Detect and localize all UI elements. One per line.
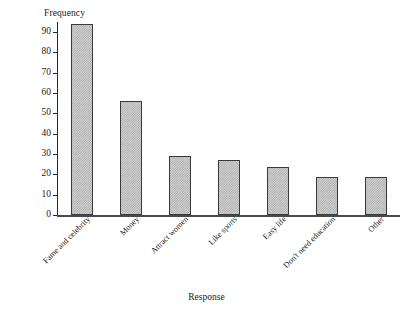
x-axis-tick-labels: Fame and celebrityMoneyAttract womenLike… xyxy=(57,216,407,286)
bar xyxy=(316,177,338,215)
x-tick-label: Like sports xyxy=(208,216,240,248)
y-tick-mark xyxy=(53,73,57,74)
y-tick-mark xyxy=(53,134,57,135)
x-tick-label-text: Don't need education xyxy=(281,215,336,270)
x-tick-label: Don't need education xyxy=(283,216,338,271)
x-tick-label: Money xyxy=(120,216,143,239)
y-tick-label: 60 xyxy=(42,88,52,98)
y-axis-title: Frequency xyxy=(44,8,85,18)
x-tick-label-text: Money xyxy=(118,215,141,238)
y-tick-mark xyxy=(53,113,57,114)
y-tick-label: 20 xyxy=(42,170,52,180)
x-axis-title: Response xyxy=(0,292,413,302)
y-tick-mark xyxy=(53,154,57,155)
x-tick-label: Other xyxy=(367,216,387,236)
bar xyxy=(71,24,93,215)
y-tick-mark xyxy=(53,93,57,94)
y-tick-mark xyxy=(53,174,57,175)
x-tick-label: Attract women xyxy=(151,216,192,257)
y-tick-label: 40 xyxy=(42,129,52,139)
x-tick-label-text: Like sports xyxy=(207,215,239,247)
bar xyxy=(218,160,240,215)
plot-area: 0102030405060708090 xyxy=(57,22,400,216)
bar-chart: Frequency 0102030405060708090 Fame and c… xyxy=(0,0,413,317)
x-tick-label: Easy life xyxy=(262,216,289,243)
bar xyxy=(267,167,289,215)
x-tick-label: Fame and celebrity xyxy=(43,216,94,267)
y-tick-label: 10 xyxy=(42,190,52,200)
y-tick-mark xyxy=(53,32,57,33)
y-tick-label: 0 xyxy=(46,210,51,220)
y-tick-mark xyxy=(53,195,57,196)
y-tick-label: 30 xyxy=(42,149,52,159)
x-tick-label-text: Easy life xyxy=(261,215,288,242)
y-tick-label: 50 xyxy=(42,109,52,119)
x-tick-label-text: Other xyxy=(366,215,386,235)
y-tick-mark xyxy=(53,52,57,53)
bar xyxy=(169,156,191,215)
bar xyxy=(120,101,142,215)
y-tick-label: 80 xyxy=(42,48,52,58)
x-tick-label-text: Fame and celebrity xyxy=(42,215,93,266)
x-tick-label-text: Attract women xyxy=(149,215,190,256)
y-tick-label: 70 xyxy=(42,68,52,78)
bar-series xyxy=(58,22,400,215)
bar xyxy=(365,177,387,215)
y-tick-label: 90 xyxy=(42,27,52,37)
